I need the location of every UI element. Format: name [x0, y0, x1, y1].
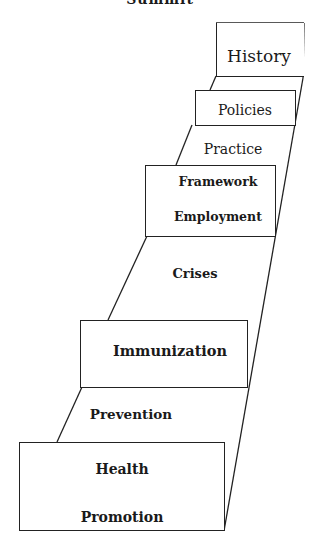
step-label-history: History [227, 48, 291, 65]
step-label-employment: Employment [174, 211, 262, 224]
step-label-practice: Practice [204, 142, 263, 156]
step-label-promotion: Promotion [81, 510, 164, 524]
step-label-framework: Framework [179, 176, 258, 189]
step-label-immunization: Immunization [113, 344, 227, 359]
step-label-prevention: Prevention [90, 408, 172, 422]
step-label-health: Health [95, 462, 148, 476]
step-label-policies: Policies [218, 103, 272, 117]
step-label-crises: Crises [172, 267, 217, 280]
